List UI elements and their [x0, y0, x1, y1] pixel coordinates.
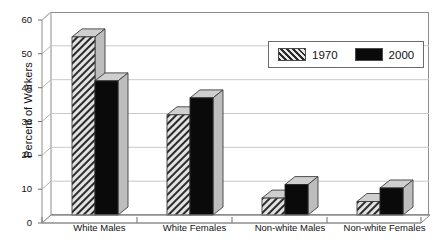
- legend-swatch-hatch-icon: [278, 48, 306, 61]
- bar-nonwhite-females-2000[interactable]: [380, 180, 413, 215]
- x-tick-label-nonwhite-females: Non-white Females: [333, 222, 436, 233]
- y-tick-label-30: 30: [6, 116, 32, 127]
- y-axis-ticks: [38, 20, 42, 223]
- chart-canvas: [0, 0, 437, 243]
- legend-label-2000: 2000: [389, 49, 415, 61]
- bar-group-nonwhite-females: [357, 180, 413, 215]
- bar-chart: Percent of Workers: [0, 0, 437, 243]
- bar-white-males-2000[interactable]: [95, 73, 128, 215]
- x-tick-label-nonwhite-males: Non-white Males: [240, 222, 340, 233]
- y-tick-label-60: 60: [6, 14, 32, 25]
- bar-group-white-males: [72, 29, 128, 215]
- chart-legend: 1970 2000: [268, 41, 424, 68]
- x-tick-label-white-females: White Females: [147, 222, 242, 233]
- y-tick-label-0: 0: [6, 217, 32, 228]
- y-tick-label-20: 20: [6, 149, 32, 160]
- bar-nonwhite-males-2000[interactable]: [285, 177, 318, 215]
- legend-entry-1970[interactable]: 1970: [278, 48, 338, 61]
- y-tick-label-50: 50: [6, 48, 32, 59]
- y-tick-label-40: 40: [6, 82, 32, 93]
- legend-label-1970: 1970: [312, 49, 338, 61]
- legend-entry-2000[interactable]: 2000: [355, 48, 415, 61]
- bar-group-white-females: [167, 90, 223, 215]
- bar-group-nonwhite-males: [262, 177, 318, 215]
- bar-white-females-2000[interactable]: [190, 90, 223, 215]
- x-tick-label-white-males: White Males: [52, 222, 147, 233]
- legend-swatch-solid-icon: [355, 48, 383, 61]
- y-tick-label-10: 10: [6, 183, 32, 194]
